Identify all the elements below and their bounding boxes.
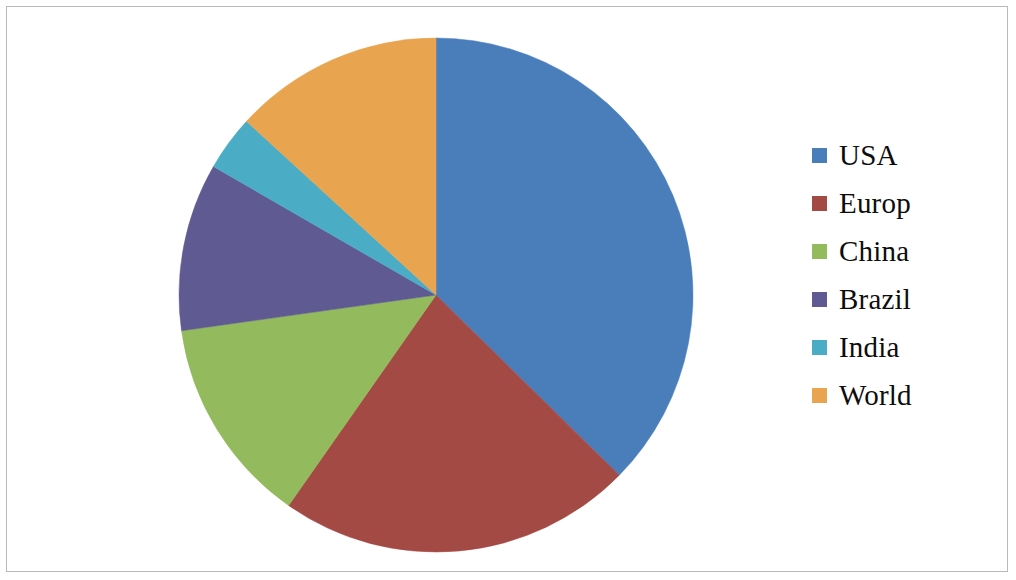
legend-item-china[interactable]: China — [812, 227, 1002, 275]
legend-swatch-icon — [812, 196, 827, 211]
legend-label: Brazil — [839, 285, 911, 314]
legend-label: USA — [839, 141, 898, 170]
legend-swatch-icon — [812, 340, 827, 355]
legend-item-europ[interactable]: Europ — [812, 179, 1002, 227]
legend-swatch-icon — [812, 148, 827, 163]
legend-item-india[interactable]: India — [812, 323, 1002, 371]
legend-item-world[interactable]: World — [812, 371, 1002, 419]
legend-label: India — [839, 333, 900, 362]
legend-swatch-icon — [812, 244, 827, 259]
legend-swatch-icon — [812, 292, 827, 307]
legend-label: World — [839, 381, 912, 410]
chart-figure: USAEuropChinaBrazilIndiaWorld — [0, 0, 1016, 580]
legend-swatch-icon — [812, 388, 827, 403]
legend-label: Europ — [839, 189, 911, 218]
legend-item-usa[interactable]: USA — [812, 131, 1002, 179]
pie-slice-group — [179, 38, 693, 552]
legend-item-brazil[interactable]: Brazil — [812, 275, 1002, 323]
chart-legend: USAEuropChinaBrazilIndiaWorld — [812, 131, 1002, 419]
legend-label: China — [839, 237, 909, 266]
